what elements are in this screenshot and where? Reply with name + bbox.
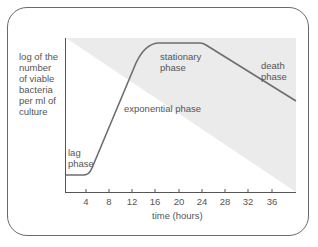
x-axis-ticks: [86, 189, 272, 192]
y-label-line: log of the: [19, 51, 69, 62]
y-label-line: culture: [19, 106, 69, 117]
exponential-phase-label: exponential phase: [124, 103, 201, 114]
death-phase-line1: death: [261, 60, 287, 71]
y-axis-label: log of the number of viable bacteria per…: [19, 51, 69, 117]
death-phase-label: death phase: [261, 60, 287, 82]
death-phase-line2: phase: [261, 71, 287, 82]
x-axis-title: time (hours): [152, 210, 203, 221]
lag-phase-line1: lag: [68, 147, 94, 158]
stationary-phase-line2: phase: [160, 62, 201, 73]
stationary-phase-line1: stationary: [160, 51, 201, 62]
y-label-line: of viable: [19, 73, 69, 84]
x-tick-label: 24: [197, 196, 208, 207]
y-label-line: bacteria: [19, 84, 69, 95]
x-tick-label: 8: [106, 196, 111, 207]
x-tick-label: 4: [83, 196, 88, 207]
x-tick-label: 28: [220, 196, 231, 207]
y-label-line: number: [19, 62, 69, 73]
x-tick-label: 12: [127, 196, 138, 207]
y-label-line: per ml of: [19, 95, 69, 106]
x-tick-label: 20: [174, 196, 185, 207]
lag-phase-label: lag phase: [68, 147, 94, 169]
lag-phase-line2: phase: [68, 158, 94, 169]
x-tick-label: 16: [150, 196, 161, 207]
x-tick-label: 36: [267, 196, 278, 207]
x-tick-label: 32: [243, 196, 254, 207]
stationary-phase-label: stationary phase: [160, 51, 201, 73]
